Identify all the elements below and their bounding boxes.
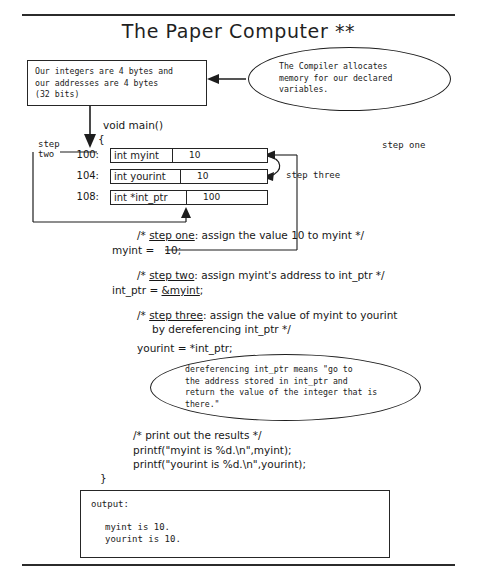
step-two-label-line2: two (38, 149, 54, 160)
open-brace: { (98, 132, 105, 146)
memory-row: int *int_ptr 100 (110, 190, 268, 205)
memory-address: 100: (73, 149, 99, 160)
comment-open: /* (137, 309, 149, 321)
output-line: myint is 10. (91, 521, 389, 533)
memory-value: 100 (187, 191, 220, 204)
step-one-label: step one (382, 140, 425, 151)
compiler-to-note-arrow (207, 74, 246, 84)
memory-declaration: int *int_ptr (111, 191, 187, 204)
comment-open: /* (137, 269, 149, 281)
comment-rest: : assign myint's address to int_ptr */ (194, 269, 384, 281)
note-to-main-arrow (84, 106, 96, 148)
output-line: yourint is 10. (91, 533, 389, 545)
step-three-statement: yourint = *int_ptr; (137, 341, 233, 355)
memory-address: 104: (73, 170, 99, 181)
comment-open: /* (137, 229, 149, 241)
step-one-keyword: step one (149, 229, 195, 241)
semicolon: ; (200, 284, 204, 296)
assign-lhs: int_ptr = (112, 284, 162, 296)
step-three-keyword: step three (149, 309, 203, 321)
memory-value: 10 (173, 149, 200, 162)
step-two-statement: int_ptr = &myint; (112, 283, 203, 297)
step-three-comment-line2: by dereferencing int_ptr */ (152, 322, 291, 336)
memory-declaration: int myint (111, 149, 173, 162)
output-heading: output: (91, 498, 389, 510)
step-three-comment: /* step three: assign the value of myint… (137, 308, 398, 322)
step-two-comment: /* step two: assign myint's address to i… (137, 268, 385, 282)
memory-declaration: int yourint (111, 170, 181, 183)
step-three-label: step three (286, 170, 340, 181)
paper-computer-figure: The Paper Computer ** Our integers are 4… (0, 0, 477, 583)
step-one-comment: /* step one: assign the value 10 to myin… (137, 228, 364, 242)
memory-row: int yourint 10 (110, 169, 268, 184)
comment-rest: : assign the value of myint to yourint (203, 309, 398, 321)
program-output-box: output: myint is 10. yourint is 10. (80, 490, 390, 558)
step-two-keyword: step two (149, 269, 194, 281)
step-one-statement: myint = 10; (112, 243, 181, 257)
main-signature: void main() (103, 118, 163, 132)
printf-yourint: printf("yourint is %d.\n",yourint); (133, 457, 306, 471)
printf-myint: printf("myint is %d.\n",myint); (133, 443, 292, 457)
address-of-myint: &myint (162, 284, 200, 296)
comment-rest: : assign the value 10 to myint */ (195, 229, 364, 241)
print-comment: /* print out the results */ (133, 428, 262, 442)
memory-address: 108: (73, 191, 99, 202)
close-brace: } (100, 471, 107, 485)
memory-row: int myint 10 (110, 148, 268, 163)
memory-value: 10 (181, 170, 208, 183)
